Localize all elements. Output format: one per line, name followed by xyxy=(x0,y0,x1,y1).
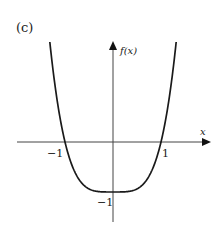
x-tick-label-neg1: −1 xyxy=(47,147,63,160)
y-tick-label-neg1: −1 xyxy=(97,196,113,209)
function-graph: (c) x f(x) −1 1 −1 xyxy=(0,0,219,225)
y-axis-arrow-icon xyxy=(109,41,117,50)
x-axis-arrow-icon xyxy=(202,138,211,146)
x-axis-label: x xyxy=(200,126,206,137)
panel-label: (c) xyxy=(16,20,33,35)
x-tick-label-1: 1 xyxy=(162,147,169,160)
y-axis-label: f(x) xyxy=(119,45,137,56)
